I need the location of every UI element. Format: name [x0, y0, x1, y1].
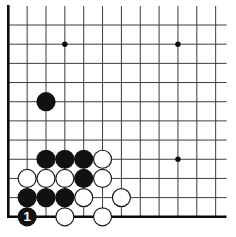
black-stone — [18, 207, 37, 226]
white-stone — [94, 208, 112, 226]
white-stone — [112, 189, 130, 207]
black-stone — [36, 92, 55, 111]
white-stone — [94, 169, 112, 187]
star-point — [175, 41, 180, 46]
go-board: 1 — [0, 0, 236, 237]
star-point — [62, 41, 67, 46]
black-stone — [74, 150, 93, 169]
white-stone — [75, 189, 93, 207]
black-stone — [36, 150, 55, 169]
white-stone — [37, 169, 55, 187]
black-stone — [18, 188, 37, 207]
black-stone — [55, 188, 74, 207]
black-stone — [55, 150, 74, 169]
white-stone — [94, 150, 112, 168]
white-stone — [56, 169, 74, 187]
white-stone — [56, 208, 74, 226]
black-stone — [74, 169, 93, 188]
go-problem-diagram: 1 — [0, 0, 236, 237]
white-stone — [18, 169, 36, 187]
star-point — [175, 157, 180, 162]
black-stone — [36, 188, 55, 207]
